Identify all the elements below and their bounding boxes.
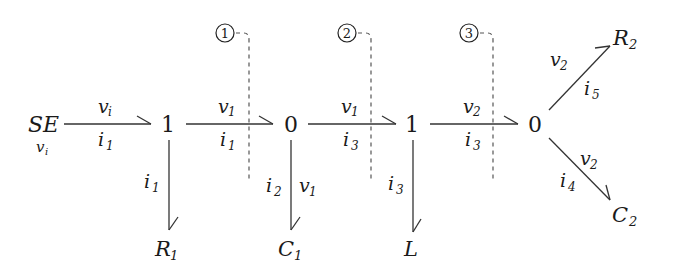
svg-text:1: 1 [106, 139, 114, 153]
svg-text:2: 2 [589, 158, 598, 172]
svg-text:1: 1 [294, 248, 302, 263]
svg-text:i: i [560, 169, 566, 191]
svg-text:1: 1 [170, 248, 178, 263]
svg-text:3: 3 [473, 139, 481, 153]
svg-text:i: i [388, 172, 394, 194]
svg-text:C: C [612, 203, 628, 227]
svg-text:1: 1 [228, 139, 236, 153]
svg-text:2: 2 [273, 185, 282, 199]
bond-to-c2: v 2 i 4 C 2 [549, 138, 637, 229]
svg-text:3: 3 [351, 139, 359, 153]
svg-text:L: L [403, 237, 418, 261]
svg-text:1: 1 [228, 105, 236, 119]
bond-graph-diagram: SE v i v i i 1 1 v 1 i 1 0 v 1 i 3 1 v [0, 0, 673, 280]
bond-1-to-0-b: v 2 i 3 [430, 95, 518, 153]
svg-text:i: i [343, 128, 349, 150]
svg-text:i: i [465, 128, 471, 150]
bond-se-to-1: v i i 1 [64, 95, 151, 153]
svg-text:i: i [144, 170, 150, 192]
svg-text:i: i [108, 105, 112, 119]
svg-text:i: i [584, 77, 590, 99]
bond-0-to-1: v 1 i 3 [308, 95, 396, 153]
zero-junction-b: 0 [528, 112, 542, 137]
svg-text:v: v [36, 138, 45, 156]
svg-text:3: 3 [396, 183, 404, 197]
svg-text:2: 2 [472, 105, 481, 119]
svg-text:2: 2 [628, 214, 637, 229]
svg-text:1: 1 [152, 181, 160, 195]
svg-text:i: i [45, 146, 48, 157]
source-effort-node: SE v i [28, 112, 59, 157]
svg-text:2: 2 [559, 59, 568, 73]
svg-text:1: 1 [221, 26, 229, 41]
one-junction-a: 1 [161, 112, 175, 137]
svg-text:R: R [154, 237, 171, 261]
bond-1-to-0-a: v 1 i 1 [186, 95, 273, 153]
svg-text:4: 4 [567, 180, 576, 194]
one-junction-b: 1 [405, 112, 419, 137]
svg-text:i: i [98, 128, 104, 150]
svg-text:i: i [220, 128, 226, 150]
zero-junction-a: 0 [284, 112, 298, 137]
svg-text:i: i [266, 174, 272, 196]
svg-text:5: 5 [592, 88, 600, 102]
bond-to-c1: i 2 v 1 C 1 [266, 140, 317, 263]
svg-text:2: 2 [343, 26, 351, 41]
svg-text:2: 2 [628, 37, 637, 52]
svg-text:C: C [278, 237, 294, 261]
svg-text:R: R [612, 26, 629, 50]
svg-text:1: 1 [309, 185, 317, 199]
svg-text:1: 1 [351, 105, 359, 119]
bond-to-r2: v 2 i 5 R 2 [549, 26, 637, 110]
svg-text:SE: SE [28, 112, 59, 137]
svg-text:3: 3 [465, 26, 473, 41]
bond-to-l: i 3 L [388, 140, 421, 261]
bond-to-r1: i 1 R 1 [144, 140, 178, 263]
